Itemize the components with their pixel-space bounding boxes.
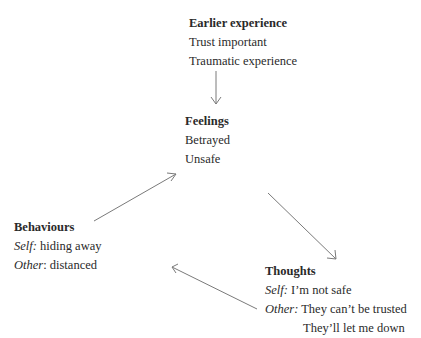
node-line-self: Self: hiding away xyxy=(14,237,102,256)
other-text: : distanced xyxy=(43,258,97,272)
node-line: Unsafe xyxy=(185,150,230,169)
node-title: Feelings xyxy=(185,112,230,131)
self-text: I’m not safe xyxy=(288,283,352,297)
node-line: Trust important xyxy=(189,33,297,52)
self-label: Self: xyxy=(265,283,288,297)
self-label: Self: xyxy=(14,239,37,253)
node-behaviours: Behaviours Self: hiding away Other: dist… xyxy=(14,218,102,275)
node-thoughts: Thoughts Self: I’m not safe Other: They … xyxy=(265,262,407,338)
node-earlier-experience: Earlier experience Trust important Traum… xyxy=(189,14,297,71)
other-label: Other: xyxy=(265,302,298,316)
node-title: Behaviours xyxy=(14,218,102,237)
node-feelings: Feelings Betrayed Unsafe xyxy=(185,112,230,169)
arrow-thoughts-to-behaviours xyxy=(172,264,257,309)
node-line: Traumatic experience xyxy=(189,52,297,71)
other-text: They can’t be trusted xyxy=(298,302,407,316)
node-title: Earlier experience xyxy=(189,14,297,33)
other-label: Other xyxy=(14,258,43,272)
node-line-other: Other: They can’t be trusted xyxy=(265,300,407,319)
self-text: hiding away xyxy=(37,239,102,253)
arrow-behaviours-to-feelings xyxy=(94,173,176,221)
arrow-earlier-to-feelings xyxy=(211,71,221,104)
node-line-other: Other: distanced xyxy=(14,256,102,275)
node-line-extra: They’ll let me down xyxy=(265,319,407,338)
node-line: Betrayed xyxy=(185,131,230,150)
node-line-self: Self: I’m not safe xyxy=(265,281,407,300)
node-title: Thoughts xyxy=(265,262,407,281)
arrow-feelings-to-thoughts xyxy=(268,193,336,259)
